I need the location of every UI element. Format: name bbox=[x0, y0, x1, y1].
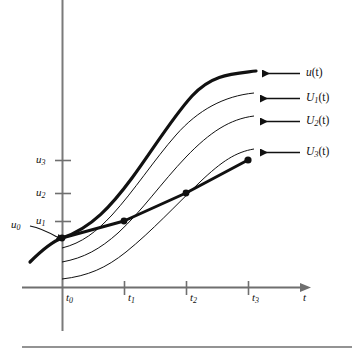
x-tick-label-t0: t0 bbox=[66, 292, 73, 305]
point-u2 bbox=[183, 190, 190, 197]
figure-container: t0 t1 t2 t3 t u3 u2 u1 u0 u(t) U1(t) U2(… bbox=[0, 0, 352, 357]
y-tick-label-u2: u2 bbox=[36, 187, 45, 200]
x-tick-label-t3: t3 bbox=[252, 292, 259, 305]
point-u3 bbox=[244, 156, 251, 163]
curve-U2 bbox=[62, 116, 254, 262]
annotation-u0: u0 bbox=[11, 219, 20, 232]
legend-label-u: u(t) bbox=[306, 67, 323, 81]
point-u1 bbox=[121, 218, 128, 225]
x-axis-label: t bbox=[303, 292, 306, 303]
legend-label-U2: U2(t) bbox=[306, 115, 329, 129]
curve-u-exact bbox=[30, 71, 256, 262]
x-tick-label-t2: t2 bbox=[190, 292, 197, 305]
legend-label-U3: U3(t) bbox=[306, 146, 329, 160]
y-tick-label-u3: u3 bbox=[36, 154, 45, 167]
point-u0 bbox=[59, 235, 66, 242]
curve-U3 bbox=[62, 149, 254, 279]
x-tick-label-t1: t1 bbox=[128, 292, 135, 305]
y-tick-label-u1: u1 bbox=[36, 215, 45, 228]
legend-label-U1: U1(t) bbox=[306, 92, 329, 106]
diagram-canvas bbox=[0, 0, 352, 357]
